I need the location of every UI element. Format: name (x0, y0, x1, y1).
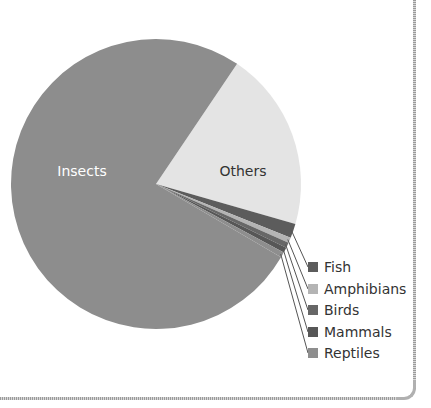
legend-label-mammals: Mammals (324, 324, 392, 340)
legend-label-fish: Fish (324, 259, 351, 275)
leader-line-mammals (283, 249, 308, 332)
legend-swatch-reptiles (308, 348, 318, 358)
legend-swatch-amphibians (308, 284, 318, 294)
legend: FishAmphibiansBirdsMammalsReptiles (308, 259, 406, 361)
legend-swatch-fish (308, 262, 318, 272)
leader-line-fish (291, 230, 308, 267)
legend-label-birds: Birds (324, 302, 359, 318)
legend-label-amphibians: Amphibians (324, 281, 406, 297)
legend-swatch-mammals (308, 327, 318, 337)
pie-chart: OthersInsects FishAmphibiansBirdsMammals… (0, 0, 431, 408)
leader-line-birds (286, 244, 308, 310)
slice-label-insects: Insects (57, 163, 106, 179)
legend-swatch-birds (308, 305, 318, 315)
legend-label-reptiles: Reptiles (324, 345, 380, 361)
slice-label-others: Others (219, 163, 266, 179)
pie-slices (11, 39, 301, 329)
